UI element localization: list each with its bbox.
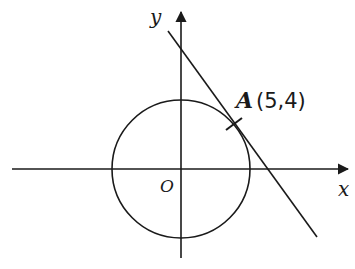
point-a-coords: (5,4) (256, 89, 306, 113)
x-axis-label: x (338, 177, 349, 201)
tangent-line (168, 31, 317, 237)
point-a-label: A (234, 87, 253, 113)
coordinate-diagram: y x O A (5,4) (0, 0, 355, 269)
origin-label: O (160, 176, 174, 196)
y-axis-label: y (149, 5, 162, 29)
